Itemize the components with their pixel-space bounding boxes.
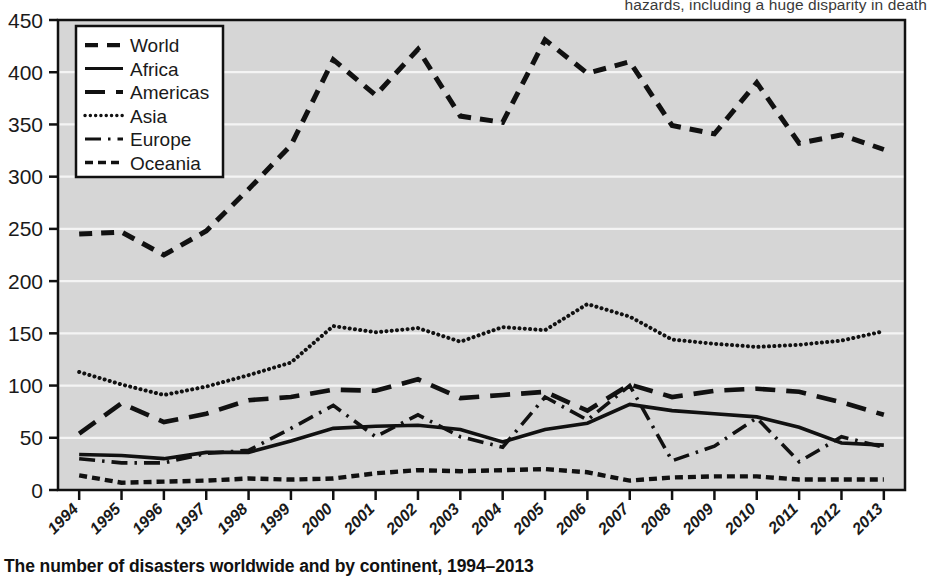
x-axis-tick-label: 2010 — [721, 500, 759, 538]
legend-label: Asia — [130, 106, 167, 127]
y-axis-tick-label: 50 — [20, 426, 43, 449]
x-axis-ticks: 1994199519961997199819992000200120022003… — [44, 490, 886, 538]
x-axis-tick-label: 2001 — [340, 500, 378, 538]
x-axis-tick-label: 2004 — [467, 500, 505, 538]
x-axis-tick-label: 2011 — [764, 500, 801, 537]
x-axis-tick-label: 2002 — [382, 500, 420, 538]
legend-label: Europe — [130, 129, 191, 150]
x-axis-tick-label: 1996 — [129, 500, 166, 537]
y-axis-ticks: 050100150200250300350400450 — [8, 9, 58, 502]
x-axis-tick-label: 2012 — [806, 500, 844, 538]
x-axis-tick-label: 1999 — [256, 500, 293, 537]
y-axis-tick-label: 150 — [8, 322, 43, 345]
y-axis-tick-label: 350 — [8, 113, 43, 136]
legend-label: Oceania — [130, 153, 201, 174]
legend-label: Africa — [130, 59, 179, 80]
y-axis-tick-label: 0 — [31, 479, 43, 502]
y-axis-tick-label: 200 — [8, 270, 43, 293]
x-axis-tick-label: 2007 — [594, 499, 633, 538]
x-axis-tick-label: 2000 — [297, 500, 335, 538]
x-axis-tick-label: 1995 — [86, 499, 124, 537]
line-chart: 050100150200250300350400450 199419951996… — [0, 0, 931, 545]
y-axis-tick-label: 300 — [8, 165, 43, 188]
y-axis-tick-label: 250 — [8, 217, 43, 240]
x-axis-tick-label: 2013 — [848, 500, 886, 538]
y-axis-tick-label: 450 — [8, 9, 43, 32]
x-axis-tick-label: 2008 — [636, 500, 674, 538]
disaster-count-figure: hazards, including a huge disparity in d… — [0, 0, 931, 583]
y-axis-tick-label: 400 — [8, 61, 43, 84]
figure-caption: The number of disasters worldwide and by… — [4, 556, 534, 577]
chart-legend: WorldAfricaAmericasAsiaEuropeOceania — [76, 26, 223, 177]
x-axis-tick-label: 2009 — [679, 500, 717, 538]
x-axis-tick-label: 2006 — [552, 500, 590, 538]
x-axis-tick-label: 1997 — [171, 499, 209, 537]
x-axis-tick-label: 1998 — [214, 500, 251, 537]
x-axis-tick-label: 2003 — [425, 500, 463, 538]
x-axis-tick-label: 2005 — [509, 499, 548, 538]
legend-label: Americas — [130, 82, 209, 103]
legend-label: World — [130, 35, 179, 56]
x-axis-tick-label: 1994 — [44, 500, 81, 537]
y-axis-tick-label: 100 — [8, 374, 43, 397]
